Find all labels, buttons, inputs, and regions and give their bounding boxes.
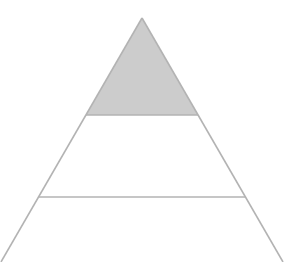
- pyramid-tier-bottom[interactable]: [1, 197, 283, 262]
- pyramid-tier-top[interactable]: [86, 18, 198, 115]
- pyramid-tier-middle[interactable]: [39, 115, 246, 197]
- pyramid-diagram: [0, 0, 284, 262]
- pyramid-svg: [0, 0, 284, 262]
